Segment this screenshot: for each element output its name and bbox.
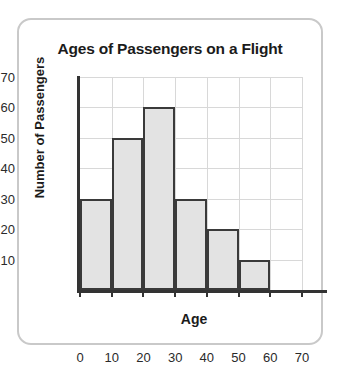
x-tick-label: 10 — [97, 351, 127, 364]
y-tick-label: 70 — [0, 71, 15, 84]
y-tick-label: 60 — [0, 101, 15, 114]
y-tick-label: 10 — [0, 254, 15, 267]
gridline-horizontal — [80, 77, 302, 78]
y-tick-label: 50 — [0, 132, 15, 145]
bar — [80, 199, 112, 290]
x-axis-title: Age — [79, 311, 309, 327]
y-tick-label: 40 — [0, 162, 15, 175]
x-tick-label: 70 — [287, 351, 317, 364]
gridline-vertical — [270, 77, 271, 290]
bar — [175, 199, 207, 290]
x-tick-label: 60 — [255, 351, 285, 364]
x-tick-mark — [301, 290, 303, 297]
x-tick-mark — [206, 290, 208, 297]
y-tick-label: 20 — [0, 223, 15, 236]
x-tick-mark — [174, 290, 176, 297]
x-tick-mark — [142, 290, 144, 297]
gridline-horizontal — [80, 107, 302, 108]
x-axis-line — [77, 290, 327, 293]
chart-title: Ages of Passengers on a Flight — [19, 40, 321, 58]
bar — [239, 260, 271, 290]
bar — [143, 107, 175, 290]
bar — [207, 229, 239, 290]
bar — [112, 138, 144, 290]
chart-card: Ages of Passengers on a Flight Number of… — [17, 18, 323, 345]
y-axis-line — [77, 76, 80, 291]
gridline-vertical — [239, 77, 240, 290]
x-tick-mark — [238, 290, 240, 297]
x-tick-mark — [269, 290, 271, 297]
x-tick-label: 40 — [192, 351, 222, 364]
x-tick-label: 20 — [128, 351, 158, 364]
x-tick-mark — [79, 290, 81, 297]
y-tick-label: 30 — [0, 193, 15, 206]
x-tick-label: 50 — [224, 351, 254, 364]
x-tick-label: 30 — [160, 351, 190, 364]
gridline-vertical — [302, 77, 303, 290]
x-tick-label: 0 — [65, 351, 95, 364]
y-axis-title: Number of Passengers — [32, 48, 47, 208]
plot-area: 10203040506070 010203040506070 — [80, 77, 302, 290]
x-tick-mark — [111, 290, 113, 297]
